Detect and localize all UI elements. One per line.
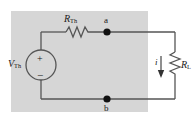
terminal-b-label: b [104,104,109,113]
circuit-schematic [0,0,196,123]
terminal-a-label: a [104,16,108,25]
series-resistor-label-subscript: Th [70,17,77,24]
series-resistor-label: RTh [64,14,77,25]
source-plus-sign: + [37,53,43,64]
load-resistor-label: RL [181,60,191,71]
voltage-source-label: VTh [8,59,21,70]
terminal-a-dot [103,28,110,35]
source-minus-sign: − [37,69,43,81]
terminal-b-dot [103,95,110,102]
voltage-source-label-subscript: Th [14,62,21,69]
series-resistor-symbol [66,27,90,37]
current-arrow-head [158,70,164,78]
current-label: i [155,58,158,67]
load-resistor-label-subscript: L [187,63,191,70]
load-resistor-symbol [170,52,180,76]
circuit-diagram: RTh VTh RL i a b + − [0,0,196,123]
